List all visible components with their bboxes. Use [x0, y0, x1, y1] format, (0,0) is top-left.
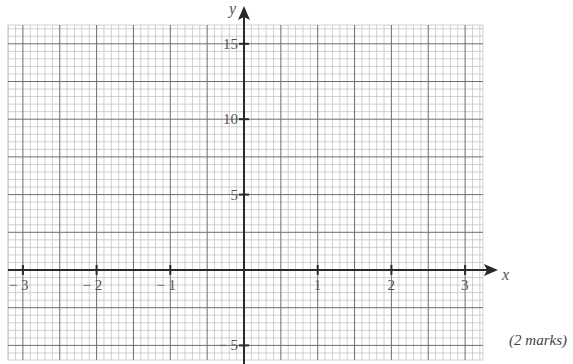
y-axis-label: y — [227, 0, 237, 18]
coordinate-grid[interactable]: x y − 3− 2− 1123− 551015 — [0, 0, 573, 364]
minor-grid-lines — [8, 25, 483, 360]
y-tick-label: − 5 — [218, 337, 238, 353]
x-axis-label: x — [501, 266, 509, 283]
major-grid-lines — [8, 25, 483, 360]
x-tick-label: 3 — [461, 277, 469, 293]
x-tick-label: 1 — [314, 277, 322, 293]
grid-border — [8, 25, 483, 360]
x-tick-label: − 1 — [156, 277, 176, 293]
x-tick-label: 2 — [387, 277, 395, 293]
y-tick-label: 5 — [231, 187, 239, 203]
marks-label: (2 marks) — [509, 332, 567, 349]
x-tick-label: − 3 — [9, 277, 29, 293]
y-tick-label: 15 — [223, 36, 238, 52]
x-tick-label: − 2 — [83, 277, 103, 293]
graph-paper: x y − 3− 2− 1123− 551015 (2 marks) — [0, 0, 573, 364]
y-tick-label: 10 — [223, 111, 238, 127]
